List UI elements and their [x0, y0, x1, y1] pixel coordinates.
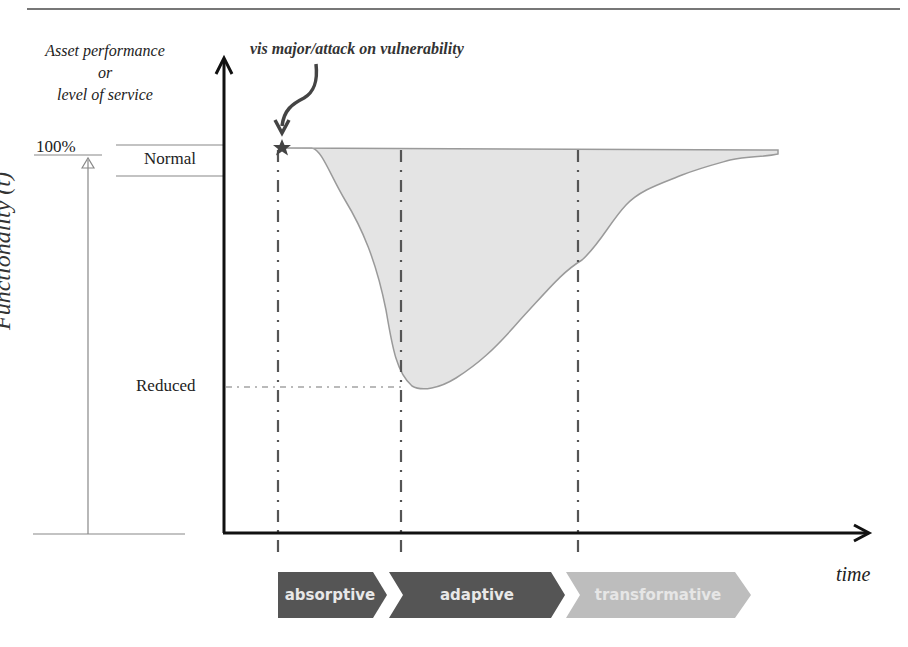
level-normal-label: Normal: [144, 149, 196, 169]
y-label-line-3: level of service: [10, 84, 200, 106]
phase-adaptive-label: adaptive: [440, 586, 514, 604]
performance-curve: [282, 148, 778, 389]
event-arrow-icon: [282, 64, 317, 126]
functionality-axis-label: Functionality (t): [0, 172, 16, 330]
level-reduced-label: Reduced: [136, 376, 195, 396]
level-100-label: 100%: [36, 137, 76, 157]
y-label-line-1: Asset performance: [10, 40, 200, 62]
phase-absorptive-label: absorptive: [285, 586, 376, 604]
event-label: vis major/attack on vulnerability: [250, 40, 464, 58]
y-axis-top-label: Asset performance or level of service: [10, 40, 200, 106]
phase-transformative-label: transformative: [595, 586, 722, 604]
time-axis-label: time: [836, 563, 870, 586]
y-label-line-2: or: [10, 62, 200, 84]
